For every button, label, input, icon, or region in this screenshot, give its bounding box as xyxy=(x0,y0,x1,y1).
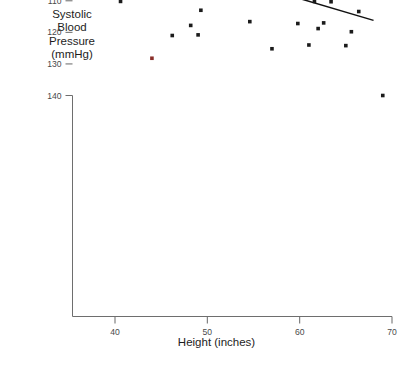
data-point xyxy=(307,43,311,47)
data-point xyxy=(170,34,174,38)
y-tick-label: 110 xyxy=(48,0,62,6)
data-point xyxy=(381,94,385,98)
y-tick-label: 140 xyxy=(47,91,62,101)
data-point xyxy=(357,10,361,14)
x-axis-title: Height (inches) xyxy=(0,336,419,348)
data-point xyxy=(329,0,333,4)
data-point xyxy=(248,20,252,24)
data-point xyxy=(350,30,354,34)
data-point xyxy=(189,24,193,28)
data-point xyxy=(196,33,200,37)
scatter-plot: 70809010011012013014040506070 xyxy=(0,0,419,365)
data-points-layer xyxy=(82,0,385,97)
x-tick-label: 50 xyxy=(203,327,213,337)
y-tick-label: 120 xyxy=(47,27,62,37)
data-point-highlighted xyxy=(150,56,154,60)
axes-layer xyxy=(66,0,393,324)
x-tick-label: 60 xyxy=(295,327,305,337)
data-point xyxy=(322,21,326,25)
data-point xyxy=(119,0,123,3)
data-point xyxy=(313,0,317,3)
data-point xyxy=(270,47,274,51)
data-point xyxy=(296,22,300,26)
x-tick-label: 40 xyxy=(110,327,120,337)
data-point xyxy=(344,44,348,48)
data-point xyxy=(316,27,320,31)
data-point xyxy=(199,8,203,12)
plot-svg: 70809010011012013014040506070 xyxy=(0,0,419,365)
chart-figure: Systolic Blood Pressure (mmHg) 708090100… xyxy=(0,0,419,365)
tick-label-layer: 70809010011012013014040506070 xyxy=(47,0,397,337)
y-tick-label: 130 xyxy=(47,59,62,69)
x-tick-label: 70 xyxy=(387,327,397,337)
